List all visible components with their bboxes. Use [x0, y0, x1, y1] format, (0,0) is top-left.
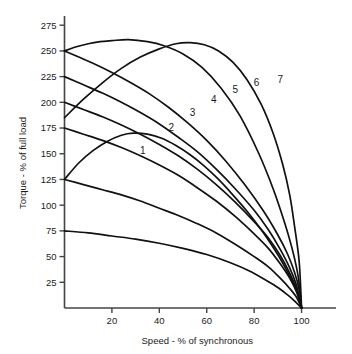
x-tick-label: 60	[201, 315, 212, 326]
y-tick-label: 75	[46, 225, 57, 236]
y-tick-label: 100	[41, 200, 57, 211]
torque-speed-chart: 255075100125150175200225250275 204060801…	[0, 0, 352, 354]
x-tick-label: 40	[154, 315, 165, 326]
y-tick-label: 225	[41, 71, 57, 82]
y-tick-label: 125	[41, 174, 57, 185]
curve-label-6: 6	[254, 77, 260, 88]
y-tick-label: 50	[46, 251, 57, 262]
y-tick-label: 175	[41, 122, 57, 133]
curve-label-2: 2	[168, 122, 174, 133]
y-tick-label: 25	[46, 277, 57, 288]
curve-label-4: 4	[211, 94, 217, 105]
curve-label-5: 5	[232, 84, 238, 95]
x-tick-label: 100	[294, 315, 310, 326]
curve-label-1: 1	[140, 145, 146, 156]
chart-canvas: 255075100125150175200225250275 204060801…	[0, 0, 352, 354]
y-tick-label: 200	[41, 97, 57, 108]
curve-label-7: 7	[277, 74, 283, 85]
curve-label-3: 3	[190, 107, 196, 118]
y-axis-title: Torque - % of full load	[17, 117, 28, 209]
x-tick-label: 80	[249, 315, 260, 326]
x-axis-title: Speed - % of synchronous	[142, 335, 254, 346]
x-tick-label: 20	[107, 315, 118, 326]
y-tick-label: 275	[41, 20, 57, 31]
y-tick-label: 150	[41, 148, 57, 159]
y-tick-label: 250	[41, 45, 57, 56]
